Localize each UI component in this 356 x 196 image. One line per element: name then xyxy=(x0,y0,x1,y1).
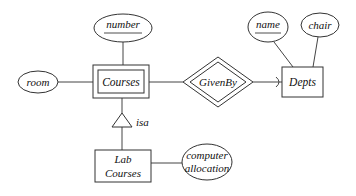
entity-courses[interactable]: Courses xyxy=(93,65,149,98)
er-diagram: number room Courses GivenBy Depts name c… xyxy=(0,0,356,196)
edge-chair-depts xyxy=(313,37,318,67)
entity-lab-courses[interactable]: Lab Courses xyxy=(95,150,151,182)
edge-name-depts xyxy=(274,42,293,67)
attribute-room[interactable]: room xyxy=(18,71,58,93)
entity-label-line2: Courses xyxy=(105,167,141,179)
attribute-number[interactable]: number xyxy=(94,14,152,42)
entity-label: Courses xyxy=(102,76,140,88)
attribute-label: chair xyxy=(308,19,332,31)
isa-label: isa xyxy=(136,116,149,128)
entity-label-line1: Lab xyxy=(113,153,132,165)
relationship-givenby[interactable]: GivenBy xyxy=(183,57,253,107)
attribute-label: name xyxy=(256,18,280,30)
attribute-label: room xyxy=(27,76,50,88)
attribute-chair[interactable]: chair xyxy=(301,13,339,37)
attribute-name[interactable]: name xyxy=(248,12,288,42)
attribute-label-line2: allocation xyxy=(185,162,230,174)
attribute-label: number xyxy=(106,18,140,30)
isa-triangle-icon xyxy=(112,113,132,127)
attribute-computer-allocation[interactable]: computer allocation xyxy=(182,144,232,180)
isa-hierarchy[interactable]: isa xyxy=(112,113,149,128)
attribute-label-line1: computer xyxy=(186,149,228,161)
entity-depts[interactable]: Depts xyxy=(282,67,323,97)
entity-label: Depts xyxy=(288,76,316,89)
relationship-label: GivenBy xyxy=(199,76,237,88)
